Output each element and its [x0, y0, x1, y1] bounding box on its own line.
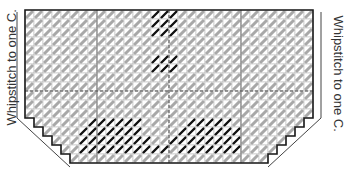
left-whipstitch-label: Whipstitch to one C. — [4, 16, 19, 126]
stitch-chart — [0, 0, 349, 177]
right-whipstitch-label: Whipstitch to one C. — [331, 16, 346, 126]
